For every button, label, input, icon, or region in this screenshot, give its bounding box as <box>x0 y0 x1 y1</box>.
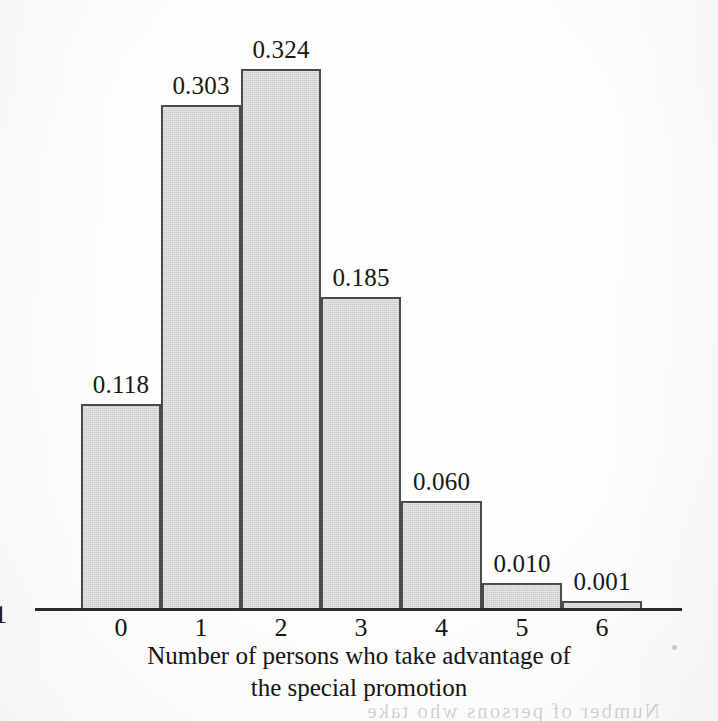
bar-category-4 <box>401 501 482 610</box>
bar-category-1 <box>161 105 241 610</box>
x-tick-label-2: 2 <box>241 613 321 643</box>
bar-value-label-6: 0.001 <box>562 568 642 596</box>
bar-value-label-2: 0.324 <box>241 36 321 64</box>
bar-value-label-5: 0.010 <box>482 550 562 578</box>
x-axis-caption-line-2: the special promotion <box>0 672 718 704</box>
x-tick-label-1: 1 <box>161 613 241 643</box>
x-axis-caption-line-1: Number of persons who take advantage of <box>0 640 718 672</box>
bar-category-5 <box>482 583 562 610</box>
bar-value-label-3: 0.185 <box>321 264 401 292</box>
bar-value-label-1: 0.303 <box>161 72 241 100</box>
bar-category-2 <box>241 69 321 610</box>
x-tick-label-4: 4 <box>401 613 482 643</box>
bar-category-3 <box>321 297 401 610</box>
histogram-plot: 0.118 0.303 0.324 0.185 0.060 0.010 0.00… <box>0 0 718 721</box>
bar-value-label-0: 0.118 <box>81 371 161 399</box>
bar-value-label-4: 0.060 <box>401 468 482 496</box>
x-tick-label-3: 3 <box>321 613 401 643</box>
x-axis-caption: Number of persons who take advantage of … <box>0 640 718 704</box>
x-tick-label-0: 0 <box>81 613 161 643</box>
x-tick-label-5: 5 <box>482 613 562 643</box>
bar-category-0 <box>81 404 161 610</box>
x-tick-label-6: 6 <box>562 613 642 643</box>
figure-page: 1 0.118 0.303 0.324 0.185 0.060 0.010 0.… <box>0 0 718 721</box>
x-axis-line <box>35 608 682 611</box>
